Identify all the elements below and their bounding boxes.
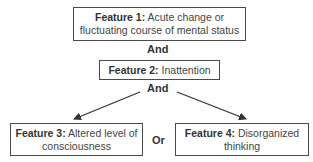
- feature1-text: Acute change or: [148, 11, 224, 23]
- feature4-text: Disorganized: [238, 127, 299, 139]
- feature2-box: Feature 2: Inattention: [99, 60, 220, 80]
- feature3-text2: consciousness: [42, 140, 111, 152]
- arrow-left: [74, 92, 140, 119]
- feature1-label: Feature 1:: [95, 11, 145, 23]
- feature2-text: Inattention: [162, 64, 211, 76]
- feature4-label: Feature 4:: [185, 127, 235, 139]
- arrow-right: [177, 92, 246, 119]
- connector-or: Or: [152, 134, 165, 146]
- feature3-label: Feature 3:: [16, 127, 66, 139]
- feature3-text: Altered level of: [68, 127, 137, 139]
- feature4-text2: thinking: [224, 140, 260, 152]
- connector-and-1: And: [147, 43, 168, 55]
- connector-and-2: And: [147, 82, 168, 94]
- feature2-label: Feature 2:: [108, 64, 158, 76]
- feature1-text2: fluctuating course of mental status: [80, 24, 239, 36]
- feature3-box: Feature 3: Altered level of consciousnes…: [10, 123, 143, 156]
- feature4-box: Feature 4: Disorganized thinking: [175, 123, 309, 156]
- feature1-box: Feature 1: Acute change or fluctuating c…: [73, 7, 246, 41]
